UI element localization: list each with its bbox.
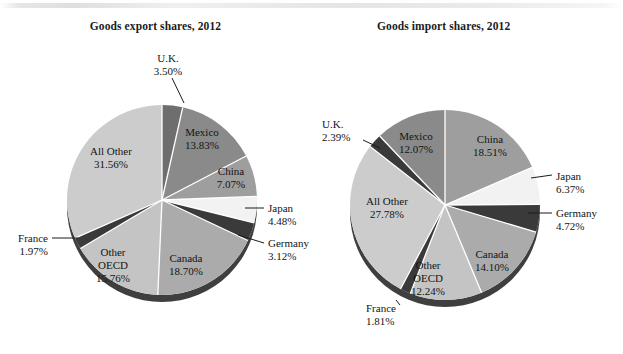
slice-label-canada: Canada18.70% <box>169 252 203 277</box>
slice-callout-label-germany: Germany4.72% <box>556 207 597 232</box>
slice-label-mexico: Mexico13.83% <box>185 126 219 151</box>
slice-callout-label-u-k: U.K.2.39% <box>322 118 350 143</box>
chart-panel-goods-export: Goods export shares, 2012 U.K.3.50%Mexic… <box>0 0 311 354</box>
leader-line-france <box>396 300 400 305</box>
slice-label-china: China7.07% <box>217 165 245 190</box>
chart-panel-goods-import: Goods import shares, 2012 China18.51%Jap… <box>311 0 622 354</box>
slice-callout-label-u-k: U.K.3.50% <box>154 52 182 77</box>
leader-line-u-k <box>172 78 184 103</box>
slice-label-canada: Canada14.10% <box>475 248 509 273</box>
slice-callout-label-france: France1.97% <box>18 232 48 257</box>
figure-canvas: Goods export shares, 2012 U.K.3.50%Mexic… <box>0 0 623 354</box>
slice-callout-label-japan: Japan4.48% <box>268 202 296 227</box>
slice-callout-label-germany: Germany3.12% <box>268 237 309 262</box>
slice-label-mexico: Mexico12.07% <box>399 130 433 155</box>
pie-chart-goods-export: U.K.3.50%Mexico13.83%China7.07%Japan4.48… <box>0 0 311 354</box>
pie-chart-goods-import: China18.51%Japan6.37%Germany4.72%Canada1… <box>311 0 622 354</box>
slice-callout-label-france: France1.81% <box>366 302 396 327</box>
slice-callout-label-japan: Japan6.37% <box>556 170 584 195</box>
slice-label-all-other: All Other31.56% <box>90 145 132 170</box>
slice-label-china: China18.51% <box>473 133 507 158</box>
slice-separator <box>445 204 540 205</box>
slice-label-other-oecd: OtherOECD15.76% <box>96 246 130 284</box>
slice-label-all-other: All Other27.78% <box>366 195 408 220</box>
slice-label-other-oecd: OtherOECD12.24% <box>411 259 445 297</box>
